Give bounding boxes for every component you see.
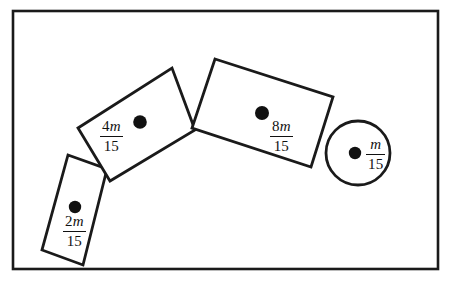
center-of-mass-dot-medium-rectangle [133, 115, 147, 129]
mass-label-denominator: 15 [366, 156, 385, 172]
fraction-bar [63, 231, 86, 233]
mass-label-denominator: 15 [100, 138, 123, 154]
fraction-bar [100, 136, 123, 138]
mass-label-small-rectangle: 2m 15 [63, 214, 86, 249]
mass-label-numerator: 8m [270, 119, 293, 135]
center-of-mass-dot-circle [349, 147, 361, 159]
mass-label-denominator: 15 [270, 138, 293, 154]
center-of-mass-dot-large-rectangle [255, 106, 269, 120]
mass-label-circle: m 15 [366, 137, 385, 172]
mass-label-numerator: 4m [100, 119, 123, 135]
figure-container: 2m 15 4m 15 8m 15 m 15 [0, 0, 449, 286]
mass-label-large-rectangle: 8m 15 [270, 119, 293, 154]
mass-label-numerator: m [366, 137, 385, 153]
mass-label-medium-rectangle: 4m 15 [100, 119, 123, 154]
mass-label-denominator: 15 [63, 233, 86, 249]
mass-label-numerator: 2m [63, 214, 86, 230]
center-of-mass-dot-small-rectangle [69, 201, 81, 213]
fraction-bar [366, 154, 385, 156]
fraction-bar [270, 136, 293, 138]
